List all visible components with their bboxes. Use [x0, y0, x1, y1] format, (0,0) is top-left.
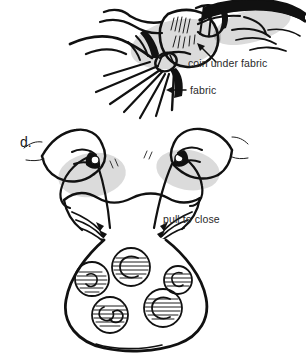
label-fabric: fabric [190, 84, 216, 96]
label-coin-under-fabric: coin under fabric [188, 57, 267, 69]
instructional-illustration: coin under fabric fabric d. [0, 0, 306, 353]
label-pull-to-close: pull to close [163, 213, 220, 225]
illustration-canvas: coin under fabric fabric d. [0, 0, 306, 353]
step-label-d: d. [20, 134, 32, 150]
